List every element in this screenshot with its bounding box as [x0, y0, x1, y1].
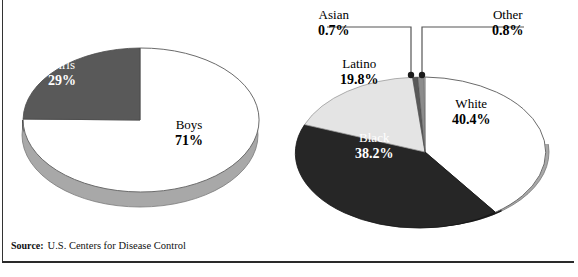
race-label-latino: Latino 19.8%: [340, 57, 379, 87]
charts-area: Girls 29% Boys 71% White 40.4% Black 38.…: [0, 0, 578, 250]
race-label-other-name: Other: [492, 8, 524, 23]
gender-label-girls-pct: 29%: [48, 73, 76, 89]
race-label-white-name: White: [452, 97, 491, 112]
source-label: Source:: [11, 240, 44, 251]
race-label-asian-pct: 0.7%: [318, 23, 350, 39]
gender-pie-chart: [14, 12, 266, 227]
race-label-other: Other 0.8%: [492, 8, 524, 38]
race-label-asian: Asian 0.7%: [318, 8, 350, 38]
gender-slice-girls: [23, 48, 140, 120]
gender-label-boys-pct: 71%: [175, 133, 203, 149]
race-label-other-pct: 0.8%: [492, 23, 524, 39]
gender-label-girls-name: Girls: [48, 58, 76, 73]
pie-chart-figure: Girls 29% Boys 71% White 40.4% Black 38.…: [0, 0, 578, 277]
race-label-latino-name: Latino: [340, 57, 379, 72]
gender-label-boys-name: Boys: [175, 118, 203, 133]
race-leader-dot-asian: [408, 72, 414, 78]
race-label-black: Black 38.2%: [355, 131, 394, 161]
source-text: U.S. Centers for Disease Control: [48, 240, 186, 251]
gender-label-girls: Girls 29%: [48, 58, 76, 88]
race-pie-chart: [292, 4, 564, 236]
race-leader-dot-other: [419, 72, 425, 78]
race-label-white: White 40.4%: [452, 97, 491, 127]
source-line: Source:U.S. Centers for Disease Control: [11, 240, 186, 251]
race-label-white-pct: 40.4%: [452, 112, 491, 128]
race-label-asian-name: Asian: [318, 8, 350, 23]
gender-label-boys: Boys 71%: [175, 118, 203, 148]
race-label-latino-pct: 19.8%: [340, 72, 379, 88]
race-label-black-name: Black: [355, 131, 394, 146]
figure-bottom-rule: [2, 261, 574, 263]
race-label-black-pct: 38.2%: [355, 146, 394, 162]
